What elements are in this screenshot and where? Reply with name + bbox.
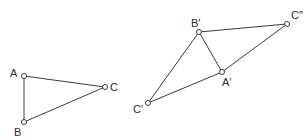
vertex-point-c2 [285,22,290,27]
edge-b1-a1 [199,32,222,72]
vertex-label-b1: B′ [191,18,200,29]
geometry-diagram [0,0,308,140]
vertex-label-a1: A′ [222,77,231,88]
vertex-point-a1 [220,70,225,75]
vertex-point-c [103,85,108,90]
vertex-label-b: B [14,127,21,138]
vertex-label-a: A [10,68,17,79]
edge-b1-c2 [199,24,287,32]
vertices [22,22,290,125]
vertex-point-a [22,74,27,79]
edges [24,24,287,122]
edge-c2-a1 [222,24,287,72]
edge-b-c [24,87,105,122]
vertex-label-c1: C′ [133,104,143,115]
vertex-label-c: C [110,82,118,93]
vertex-point-b [22,120,27,125]
edge-a-c [24,76,105,87]
vertex-label-c2: C″ [291,10,303,21]
vertex-point-c1 [146,101,151,106]
vertex-point-b1 [197,30,202,35]
